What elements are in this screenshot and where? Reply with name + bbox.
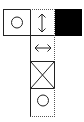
cell-center-3 — [30, 61, 55, 89]
cell-right-black — [55, 9, 82, 36]
cross-box-icon — [31, 62, 54, 88]
circle-icon — [31, 88, 55, 116]
vertical-double-arrow-icon — [30, 10, 54, 36]
cell-center-2 — [30, 35, 55, 62]
horizontal-double-arrow-icon — [31, 35, 55, 61]
cell-top-center — [30, 9, 55, 36]
circle-icon — [4, 10, 30, 35]
diagram — [0, 0, 84, 122]
cell-left — [3, 9, 31, 36]
cell-center-4 — [30, 88, 55, 117]
